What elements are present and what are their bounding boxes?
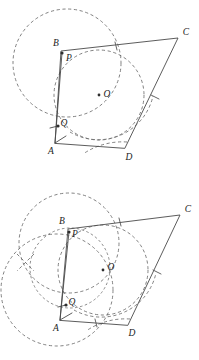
label-b-bottom: B — [59, 216, 65, 226]
tick-cd-top — [151, 95, 159, 99]
point-p-dot-top — [60, 51, 63, 54]
label-a-bottom: A — [52, 323, 59, 333]
figure-bottom: A B C D O P Q — [0, 180, 199, 360]
label-a-top: A — [47, 146, 54, 156]
label-d-bottom: D — [128, 328, 136, 338]
label-d-top: D — [125, 152, 133, 162]
segment-a-q-tail-top — [55, 136, 66, 143]
tick-cd-bottom — [153, 270, 161, 274]
point-p-dot-bottom — [67, 230, 70, 233]
figure-root: A B C D O P Q A — [0, 0, 199, 360]
label-q-top: Q — [61, 118, 68, 128]
right-arc-bottom — [74, 273, 156, 317]
label-b-top: B — [53, 38, 59, 48]
right-arc-top — [70, 96, 153, 140]
label-c-top: C — [183, 27, 190, 37]
label-p-top: P — [65, 53, 72, 63]
point-q-dot-bottom — [64, 303, 67, 306]
quadrilateral-abcd-top — [55, 38, 178, 148]
segment-a-q-tail-bottom — [60, 313, 72, 320]
point-o-dot-top — [98, 94, 101, 97]
label-q-bottom: Q — [69, 297, 76, 307]
point-q-dot-top — [56, 124, 59, 127]
label-c-bottom: C — [185, 204, 192, 214]
label-o-bottom: O — [108, 262, 115, 272]
figure-top: A B C D O P Q — [0, 0, 199, 180]
label-p-bottom: P — [71, 229, 78, 239]
tick-bc-top — [115, 42, 117, 50]
label-o-top: O — [104, 89, 111, 99]
upper-left-circle-bottom — [19, 193, 119, 293]
point-o-dot-bottom — [102, 269, 105, 272]
segment-a-p-top — [55, 53, 62, 143]
quadrilateral-abcd-bottom — [60, 215, 180, 325]
